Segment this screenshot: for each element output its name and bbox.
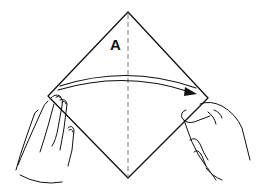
flap-label: A [110,36,121,53]
left-hand-icon [16,95,74,183]
origami-diagram: A [0,0,260,192]
